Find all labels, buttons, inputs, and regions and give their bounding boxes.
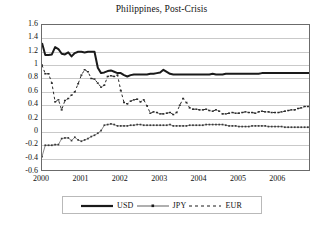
series-marker — [215, 124, 217, 126]
series-marker — [294, 126, 296, 128]
series-marker — [61, 109, 63, 111]
series-marker — [222, 124, 224, 126]
series-marker — [64, 137, 66, 139]
series-marker — [208, 110, 210, 112]
y-axis-tick-label: 0.8 — [28, 73, 38, 81]
series-marker — [100, 130, 102, 132]
series-marker — [179, 104, 181, 106]
series-marker — [192, 124, 194, 126]
series-marker — [182, 98, 184, 100]
series-marker — [245, 126, 247, 128]
y-axis-tick-label: 0 — [34, 127, 38, 135]
legend-item-eur[interactable]: EUR — [188, 196, 244, 214]
series-marker — [77, 83, 79, 85]
series-marker — [274, 112, 276, 114]
series-marker — [149, 124, 151, 126]
series-marker — [54, 144, 56, 146]
series-marker — [84, 69, 86, 71]
series-marker — [228, 112, 230, 114]
series-marker — [51, 144, 53, 146]
series-marker — [264, 125, 266, 127]
series-marker — [120, 90, 122, 92]
series-marker — [248, 112, 250, 114]
series-marker — [235, 112, 237, 114]
series-marker — [120, 125, 122, 127]
legend-item-usd[interactable]: USD — [80, 196, 136, 214]
series-marker — [294, 109, 296, 111]
series-marker — [67, 137, 69, 139]
legend-item-jpy[interactable]: JPY — [136, 196, 189, 214]
series-marker — [281, 111, 283, 113]
series-marker — [87, 138, 89, 140]
y-axis-tick-label: 1.2 — [28, 47, 38, 55]
series-marker — [268, 126, 270, 128]
legend-swatch-eur — [188, 196, 222, 214]
series-marker — [139, 101, 141, 103]
series-marker — [74, 91, 76, 93]
y-axis-tick-label: -0.2 — [25, 140, 38, 148]
series-marker — [159, 113, 161, 115]
y-axis-tick-label: 0.4 — [28, 100, 38, 108]
series-marker — [143, 124, 145, 126]
series-marker — [51, 82, 53, 84]
legend-label: JPY — [170, 201, 189, 210]
series-marker — [277, 112, 279, 114]
series-marker — [107, 76, 109, 78]
series-marker — [235, 125, 237, 127]
series-marker — [169, 124, 171, 126]
series-marker — [166, 112, 168, 114]
series-marker — [267, 111, 269, 113]
y-axis-tick-label: -0.4 — [25, 154, 38, 162]
series-marker — [199, 124, 201, 126]
series-marker — [153, 111, 155, 113]
series-marker — [84, 139, 86, 141]
series-marker — [189, 107, 191, 109]
series-marker — [255, 125, 257, 127]
series-marker — [133, 99, 135, 101]
series-marker — [264, 111, 266, 113]
series-marker — [231, 112, 233, 114]
series-marker — [42, 64, 43, 66]
series-marker — [258, 125, 260, 127]
series-marker — [277, 126, 279, 128]
series-marker — [126, 103, 128, 105]
series-marker — [156, 112, 158, 114]
series-marker — [90, 136, 92, 138]
series-marker — [80, 74, 82, 76]
x-axis-labels: 2000200120022003200420052006 — [41, 174, 310, 186]
series-marker — [287, 126, 289, 128]
series-marker — [172, 125, 174, 127]
x-axis-tick-label: 2004 — [191, 174, 207, 183]
series-line — [42, 124, 310, 157]
series-marker — [61, 138, 63, 140]
series-marker — [307, 106, 309, 108]
series-marker — [90, 78, 92, 80]
series-marker — [103, 84, 105, 86]
series-marker — [163, 124, 165, 126]
series-marker — [176, 125, 178, 127]
series-marker — [238, 112, 240, 114]
series-marker — [271, 112, 273, 114]
series-marker — [300, 107, 302, 109]
series-marker — [136, 98, 138, 100]
series-marker — [281, 126, 283, 128]
series-marker — [94, 134, 96, 136]
series-marker — [176, 112, 178, 114]
series-marker — [287, 110, 289, 112]
chart-legend: USDJPYEUR — [62, 196, 262, 214]
y-axis-tick-label: 1.4 — [28, 33, 38, 41]
series-marker — [162, 113, 164, 115]
x-axis-tick-label: 2003 — [151, 174, 167, 183]
y-axis-tick-label: 0.6 — [28, 87, 38, 95]
legend-label: EUR — [222, 201, 244, 210]
series-marker — [195, 124, 197, 126]
series-marker — [77, 139, 79, 141]
series-marker — [304, 126, 306, 128]
series-marker — [123, 102, 125, 104]
series-marker — [199, 109, 201, 111]
series-marker — [186, 125, 188, 127]
series-marker — [146, 105, 148, 107]
series-marker — [254, 112, 256, 114]
series-marker — [123, 125, 125, 127]
series-marker — [71, 94, 73, 96]
